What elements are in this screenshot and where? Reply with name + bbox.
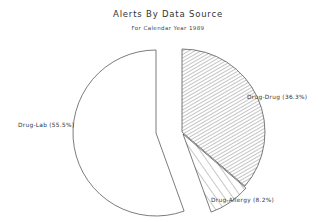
- label-drug-allergy: Drug-Allergy (8.2%): [211, 197, 274, 203]
- label-drug-lab: Drug-Lab (55.5%): [18, 122, 74, 128]
- pie-slices: [73, 49, 265, 216]
- pie-chart: [0, 0, 336, 222]
- pie-slice-drug-lab: [73, 50, 184, 216]
- label-drug-drug: Drug-Drug (36.3%): [247, 94, 307, 100]
